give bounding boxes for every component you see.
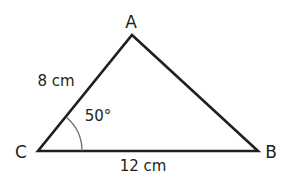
vertex-label-c: C — [15, 142, 27, 162]
angle-label-c: 50° — [85, 107, 112, 125]
vertex-label-b: B — [265, 142, 277, 162]
triangle-abc — [38, 35, 258, 151]
angle-arc-c — [66, 117, 82, 151]
side-label-cb: 12 cm — [120, 157, 167, 175]
side-label-ca: 8 cm — [37, 72, 74, 90]
vertex-label-a: A — [125, 12, 137, 32]
triangle-diagram: A B C 8 cm 12 cm 50° — [0, 0, 281, 179]
